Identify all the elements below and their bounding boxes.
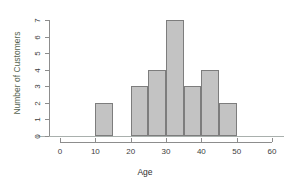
y-axis-tick-label: 6 — [33, 33, 42, 42]
x-axis-tick-label: 40 — [191, 147, 211, 156]
histogram-bar — [219, 103, 237, 136]
x-axis-tick-label: 50 — [227, 147, 247, 156]
y-axis-tick — [45, 37, 49, 38]
y-axis-tick — [45, 70, 49, 71]
x-axis-tick — [60, 138, 61, 142]
histogram-bar — [184, 86, 202, 136]
y-axis-tick-label: 2 — [33, 99, 42, 108]
histogram-bar — [166, 20, 184, 136]
x-axis-tick-label: 20 — [121, 147, 141, 156]
histogram-bar — [148, 70, 166, 136]
y-axis-tick — [45, 103, 49, 104]
x-axis-tick — [166, 138, 167, 142]
x-axis-tick-label: 60 — [262, 147, 282, 156]
y-axis-tick-label: 5 — [33, 49, 42, 58]
histogram-chart: 010203040506001234567 Age Number of Cust… — [0, 0, 290, 185]
y-axis-tick — [45, 53, 49, 54]
x-axis-tick — [237, 138, 238, 142]
y-axis-tick-label: 7 — [33, 16, 42, 25]
y-axis-tick — [45, 119, 49, 120]
x-axis-tick-label: 10 — [85, 147, 105, 156]
x-axis-title: Age — [0, 167, 290, 177]
x-axis-line — [60, 142, 272, 143]
x-axis-tick-label: 0 — [50, 147, 70, 156]
y-axis-line — [49, 20, 50, 136]
y-axis-tick-label: 0 — [33, 132, 42, 141]
y-axis-tick-label: 4 — [33, 66, 42, 75]
y-axis-title: Number of Customers — [12, 18, 22, 128]
x-axis-tick-label: 30 — [156, 147, 176, 156]
plot-area: 010203040506001234567 — [0, 0, 290, 185]
x-axis-tick — [95, 138, 96, 142]
y-axis-tick — [45, 136, 49, 137]
y-axis-tick-label: 1 — [33, 115, 42, 124]
histogram-bar — [95, 103, 113, 136]
x-axis-tick — [272, 138, 273, 142]
histogram-bar — [201, 70, 219, 136]
plot-baseline — [36, 136, 284, 137]
x-axis-tick — [201, 138, 202, 142]
histogram-bar — [131, 86, 149, 136]
y-axis-tick — [45, 86, 49, 87]
y-axis-tick — [45, 20, 49, 21]
y-axis-tick-label: 3 — [33, 82, 42, 91]
x-axis-tick — [131, 138, 132, 142]
